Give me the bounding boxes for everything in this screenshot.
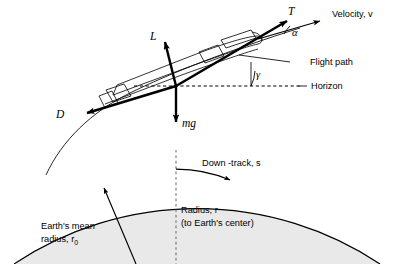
down-track-arrow <box>176 169 230 180</box>
earth-radius-subscript: 0 <box>74 239 78 246</box>
velocity-vector <box>258 21 320 39</box>
thrust-vector <box>176 21 287 86</box>
radius-label-line1: Radius, r <box>181 205 218 215</box>
diagram-canvas: T L D mg Velocity, v Flight path Horizon… <box>0 0 396 264</box>
earth-radius-label-line2: radius, r0 <box>41 234 78 246</box>
flight-path-leader <box>239 55 290 62</box>
velocity-label: Velocity, v <box>332 9 373 19</box>
flight-path-label: Flight path <box>310 57 353 67</box>
radius-label-line2: (to Earth's center) <box>181 218 254 228</box>
down-track-label: Down -track, s <box>202 158 261 168</box>
alpha-angle-label: α <box>292 27 298 38</box>
gamma-angle-label: γ <box>256 69 261 80</box>
vehicle-hull-line <box>105 49 258 104</box>
horizon-label: Horizon <box>311 81 343 91</box>
earth-radius-label-line1: Earth's mean <box>41 221 95 231</box>
gamma-angle-arc <box>251 71 255 86</box>
drag-label: D <box>55 108 65 120</box>
vehicle-wing-upper <box>221 30 256 48</box>
thrust-label: T <box>288 5 296 17</box>
lift-label: L <box>149 30 156 42</box>
earth-radius-prefix: radius, r <box>41 234 74 244</box>
flight-path-curve <box>46 28 300 175</box>
flight-vehicle-force-diagram: T L D mg Velocity, v Flight path Horizon… <box>0 0 396 264</box>
weight-label: mg <box>182 117 196 130</box>
